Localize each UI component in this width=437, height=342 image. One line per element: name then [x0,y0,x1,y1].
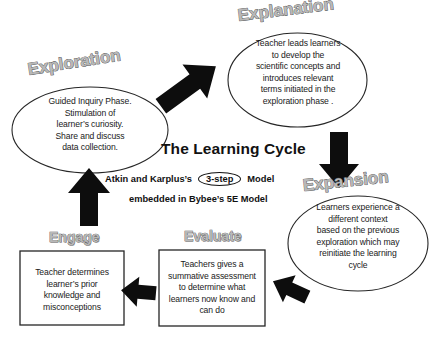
subtitle-suffix: Model [247,174,274,184]
evaluate-label: Evaluate [184,228,242,244]
arrow-engage-to-exploration-icon [68,168,110,226]
expansion-body-text: Learners experience a different context … [294,202,422,272]
arrow-evaluate-to-engage-icon [120,275,157,308]
evaluate-body-text: Teachers gives a summative assessment to… [161,259,263,317]
exploration-body-text: Guided Inquiry Phase. Stimulation of lea… [20,96,160,154]
subtitle-prefix: Atkin and Karplus’s [105,174,192,184]
arrow-expansion-to-evaluate-icon [267,268,314,311]
diagram-subtitle-line-1: Atkin and Karplus’s 3-step Model [105,172,274,186]
engage-label: Engage [49,229,100,245]
diagram-title: The Learning Cycle [161,140,306,158]
diagram-subtitle-line-2: embedded in Bybee’s 5E Model [129,194,268,204]
engage-body-text: Teacher determines learner’s prior knowl… [22,267,122,313]
learning-cycle-diagram: Exploration Explanation Expansion Engage… [0,0,437,342]
explanation-body-text: Teacher leads learners to develop the sc… [234,38,362,108]
three-step-circled-badge: 3-step [198,172,241,186]
